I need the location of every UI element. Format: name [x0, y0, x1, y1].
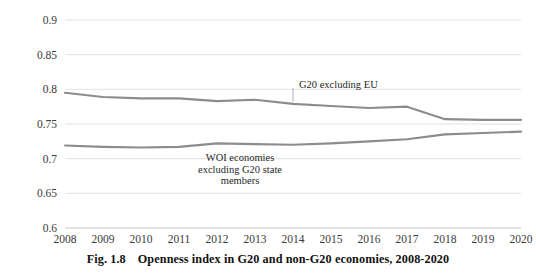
x-axis-tick-label: 2011: [168, 233, 191, 245]
y-axis-tick-label: 0.65: [37, 187, 57, 199]
x-axis-tick-label: 2019: [472, 233, 495, 245]
y-axis-tick-labels: 0.60.650.70.750.80.850.9: [37, 14, 57, 234]
x-axis-tick-label: 2008: [54, 233, 77, 245]
annotation-woi-line2: excluding G20 state: [198, 164, 282, 175]
x-axis-tick-label: 2015: [320, 233, 343, 245]
figure-caption-number: Fig. 1.8: [87, 252, 126, 266]
x-axis-tick-label: 2020: [510, 233, 533, 245]
annotations-group: G20 excluding EU WOI economies excluding…: [198, 79, 378, 186]
figure-caption: Fig. 1.8Openness index in G20 and non-G2…: [0, 252, 536, 267]
y-axis-tick-label: 0.75: [37, 118, 57, 130]
x-axis-tick-label: 2012: [206, 233, 229, 245]
y-axis-tick-label: 0.7: [43, 153, 58, 165]
annotation-woi-line1: WOI economies: [206, 152, 275, 163]
line-chart-svg: 0.60.650.70.750.80.850.9 200820092010201…: [0, 0, 536, 250]
x-axis-tick-label: 2018: [434, 233, 457, 245]
annotation-g20-excluding-eu: G20 excluding EU: [299, 79, 378, 90]
gridlines-group: [65, 20, 521, 228]
x-axis-tick-label: 2016: [358, 233, 381, 245]
figure-caption-text: Openness index in G20 and non-G20 econom…: [138, 252, 449, 266]
x-axis-tick-label: 2014: [282, 233, 305, 245]
x-axis-tick-label: 2010: [130, 233, 153, 245]
x-axis-tick-label: 2013: [244, 233, 267, 245]
chart-plot-area: 0.60.650.70.750.80.850.9 200820092010201…: [0, 0, 536, 250]
series-line: [65, 132, 521, 148]
x-axis-tick-labels: 2008200920102011201220132014201520162017…: [54, 233, 533, 245]
y-axis-tick-label: 0.9: [43, 14, 58, 26]
y-axis-tick-label: 0.8: [43, 83, 58, 95]
y-axis-tick-label: 0.85: [37, 49, 57, 61]
figure-container: 0.60.650.70.750.80.850.9 200820092010201…: [0, 0, 536, 276]
annotation-woi-line3: members: [221, 175, 260, 186]
x-axis-tick-label: 2017: [396, 233, 419, 245]
x-axis-tick-label: 2009: [92, 233, 115, 245]
